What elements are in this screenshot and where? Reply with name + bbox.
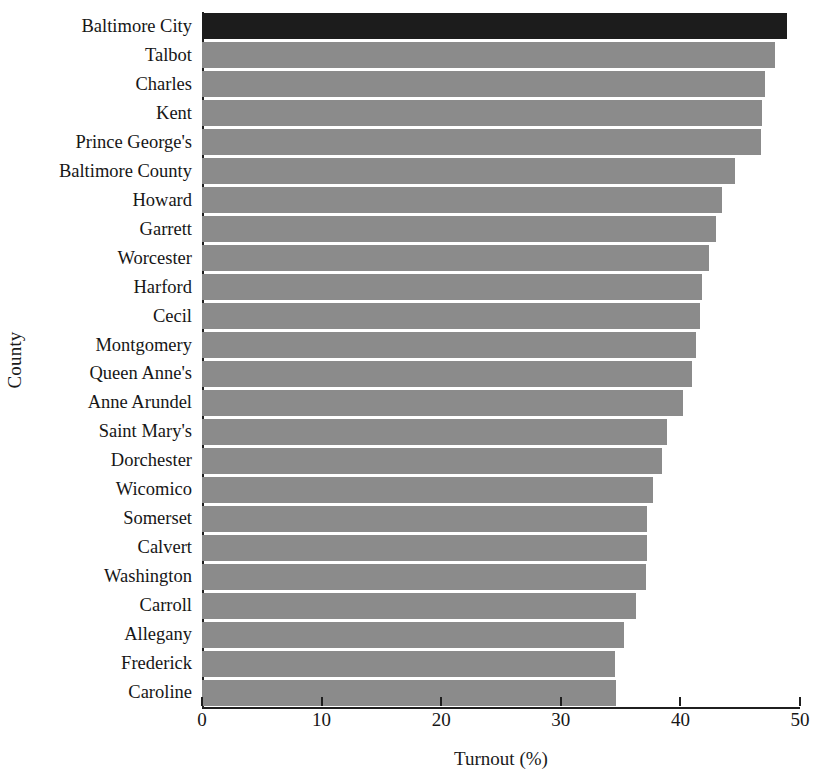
category-label: Howard	[132, 191, 192, 210]
bar	[202, 129, 761, 155]
category-label: Calvert	[138, 538, 192, 557]
category-label: Baltimore City	[82, 17, 192, 36]
category-label: Prince George's	[75, 133, 192, 152]
category-label: Wicomico	[116, 480, 192, 499]
bar	[202, 564, 646, 590]
bar	[202, 361, 692, 387]
category-label: Garrett	[140, 220, 192, 239]
bar	[202, 506, 647, 532]
category-label: Allegany	[124, 625, 192, 644]
category-label: Montgomery	[95, 336, 192, 355]
bar	[202, 303, 700, 329]
x-axis-tick-mark	[201, 697, 203, 706]
bar	[202, 651, 615, 677]
bar	[202, 245, 709, 271]
category-label: Dorchester	[111, 451, 192, 470]
x-axis-tick-label: 40	[671, 710, 690, 729]
bar	[202, 419, 667, 445]
x-axis-title: Turnout (%)	[202, 748, 800, 770]
bar	[202, 332, 696, 358]
category-label: Carroll	[140, 596, 192, 615]
category-label: Frederick	[121, 654, 192, 673]
category-label: Washington	[104, 567, 192, 586]
x-axis-tick-label: 30	[551, 710, 570, 729]
bar	[202, 158, 735, 184]
category-label: Harford	[133, 278, 192, 297]
category-label: Caroline	[128, 683, 192, 702]
bar-chart: County Baltimore CityTalbotCharlesKentPr…	[0, 0, 819, 777]
bar	[202, 216, 716, 242]
x-axis-tick-mark	[560, 697, 562, 706]
category-label: Saint Mary's	[99, 422, 192, 441]
plot-area	[202, 12, 800, 707]
bar	[202, 680, 616, 706]
category-label: Kent	[156, 104, 192, 123]
bar	[202, 390, 683, 416]
bar	[202, 593, 636, 619]
bar	[202, 477, 653, 503]
bar	[202, 187, 722, 213]
x-axis-tick-mark	[799, 697, 801, 706]
x-axis-tick-label: 0	[197, 710, 207, 729]
bar	[202, 13, 787, 39]
category-label: Anne Arundel	[88, 393, 192, 412]
y-axis-title-text: County	[4, 331, 26, 388]
category-label: Charles	[135, 75, 192, 94]
bar	[202, 42, 775, 68]
bar	[202, 622, 624, 648]
bar	[202, 448, 662, 474]
bar	[202, 100, 762, 126]
category-label: Worcester	[117, 249, 192, 268]
category-label: Cecil	[153, 307, 192, 326]
category-label: Somerset	[123, 509, 192, 528]
bar	[202, 71, 765, 97]
x-axis-tick-label: 50	[791, 710, 810, 729]
category-label: Queen Anne's	[90, 364, 193, 383]
x-axis-tick-mark	[679, 697, 681, 706]
x-axis-line	[202, 707, 800, 709]
bar	[202, 274, 702, 300]
category-axis-labels: Baltimore CityTalbotCharlesKentPrince Ge…	[30, 12, 196, 707]
x-axis-tick-mark	[321, 697, 323, 706]
bar	[202, 535, 647, 561]
category-label: Baltimore County	[59, 162, 192, 181]
category-label: Talbot	[145, 46, 192, 65]
y-axis-title: County	[0, 330, 30, 390]
x-axis-tick-mark	[440, 697, 442, 706]
x-axis-tick-label: 10	[312, 710, 331, 729]
x-axis-tick-label: 20	[432, 710, 451, 729]
